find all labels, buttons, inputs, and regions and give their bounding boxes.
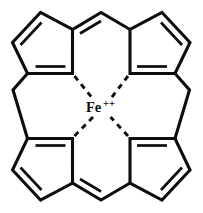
bridge-top-skeleton — [73, 13, 131, 30]
ring-top-right-double-bond-a — [161, 23, 182, 46]
chemical-structure-figure: Fe ++ — [0, 0, 203, 213]
ring-bottom-left-double-bond-a — [21, 168, 42, 191]
metal-center-label: Fe ++ — [83, 98, 121, 116]
bridge-top — [73, 13, 131, 34]
bridge-right — [175, 74, 190, 139]
ring-bottom-left — [13, 139, 73, 201]
metal-charge: ++ — [103, 98, 115, 109]
metal-symbol: Fe — [86, 99, 102, 115]
coord-bond-bottom-right — [111, 117, 129, 136]
structure-canvas: Fe ++ — [0, 0, 203, 213]
bridge-left-skeleton — [13, 74, 28, 139]
ring-bottom-right-double-bond-a — [161, 168, 182, 191]
bridge-bottom-skeleton — [73, 183, 131, 200]
coord-bond-top-right — [111, 76, 129, 99]
ring-top-left-double-bond-a — [21, 23, 42, 46]
bridge-right-skeleton — [175, 74, 190, 139]
coord-bond-bottom-left — [75, 117, 94, 136]
coord-bond-top-left — [75, 76, 94, 99]
ring-bottom-right — [130, 139, 190, 201]
ring-top-left — [13, 13, 73, 74]
bridge-bottom — [73, 179, 131, 200]
ring-top-right — [130, 13, 190, 74]
bridge-left — [13, 74, 28, 139]
